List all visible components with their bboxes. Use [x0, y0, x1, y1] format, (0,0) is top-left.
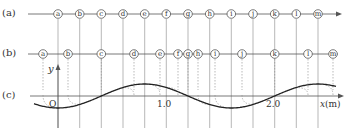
row-a-arrow-icon — [336, 12, 342, 17]
row-b-label: (b) — [2, 48, 16, 58]
particle-a-k-label: k — [273, 10, 278, 18]
dashed-arc-j — [242, 95, 253, 104]
particle-b-d-label: d — [132, 50, 137, 58]
x-axis-unit: (m) — [325, 99, 341, 109]
dashed-arc-d — [123, 88, 134, 95]
particle-a-a-label: a — [56, 10, 60, 18]
particle-b-g-label: g — [186, 50, 191, 58]
particle-b-j-label: j — [240, 50, 243, 58]
particle-b-a-label: a — [41, 50, 45, 58]
particle-a-b-label: b — [77, 10, 82, 18]
particle-a-j-label: j — [251, 10, 254, 18]
y-axis-arrow-icon — [56, 64, 61, 70]
tick-label-1: 1.0 — [157, 100, 171, 109]
particle-a-c-label: c — [99, 10, 103, 18]
particle-b-c-label: c — [99, 50, 103, 58]
particle-b-m-label: m — [330, 50, 337, 58]
particle-a-h-label: h — [207, 10, 212, 18]
particle-a-d-label: d — [121, 10, 126, 18]
y-axis-label: y — [48, 64, 54, 74]
particle-a-g-label: g — [186, 10, 191, 18]
row-a-label: (a) — [2, 8, 16, 18]
x-axis-arrow-icon — [338, 94, 344, 99]
origin-label: O — [49, 100, 56, 109]
particle-b-e-label: e — [158, 50, 162, 58]
particle-b-h-label: h — [196, 50, 201, 58]
dashed-arc-b — [68, 95, 80, 104]
tick-label-2: 2.0 — [266, 100, 280, 109]
transverse-longitudinal-wave-diagram: abcdefghijklmabcdefghijklm (a) (b) (c) y… — [0, 0, 348, 129]
particle-a-m-label: m — [315, 10, 322, 18]
x-axis-label: x(m) — [320, 100, 341, 109]
particle-b-k-label: k — [273, 50, 278, 58]
particle-b-b-label: b — [66, 50, 71, 58]
particle-a-e-label: e — [143, 10, 147, 18]
dashed-arc-l — [296, 88, 308, 95]
row-c-label: (c) — [2, 90, 15, 100]
